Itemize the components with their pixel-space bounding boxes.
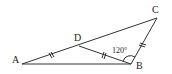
angle-label: 120°: [112, 46, 127, 55]
point-label-a: A: [12, 54, 20, 65]
point-label-c: C: [152, 4, 159, 15]
point-label-d: D: [74, 32, 81, 43]
point-label-b: B: [136, 60, 143, 71]
segment-ac: [22, 18, 157, 64]
tick-mark-bc: [139, 43, 146, 47]
tick-mark-db: [102, 52, 106, 59]
geometry-diagram: A B C D 120°: [0, 0, 172, 74]
